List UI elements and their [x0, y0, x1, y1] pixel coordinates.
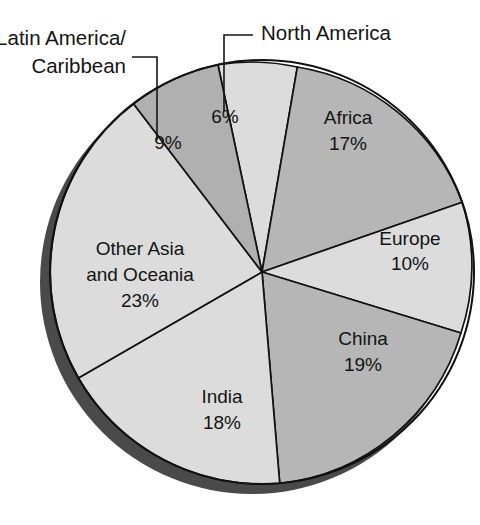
pie-chart: Latin America/ Caribbean North America 6… [0, 0, 480, 525]
pie-chart-svg: Latin America/ Caribbean North America 6… [0, 0, 480, 525]
slice-value-india: 18% [203, 412, 241, 433]
slice-label-other-asia-line2: and Oceania [86, 264, 194, 285]
slice-value-latin-america: 9% [154, 132, 182, 153]
slice-value-china: 19% [344, 354, 382, 375]
slice-value-europe: 10% [391, 253, 429, 274]
slice-label-other-asia-line1: Other Asia [96, 238, 185, 259]
slice-label-india: India [201, 386, 243, 407]
slice-label-africa: Africa [324, 107, 373, 128]
slice-value-north-america: 6% [211, 106, 239, 127]
slice-value-africa: 17% [329, 133, 367, 154]
callout-latin-america-line2: Caribbean [31, 54, 126, 77]
slice-value-other-asia: 23% [121, 290, 159, 311]
slice-label-europe: Europe [379, 228, 440, 249]
slice-label-china: China [338, 328, 388, 349]
callout-latin-america-line1: Latin America/ [0, 26, 126, 49]
callout-north-america: North America [261, 21, 391, 44]
